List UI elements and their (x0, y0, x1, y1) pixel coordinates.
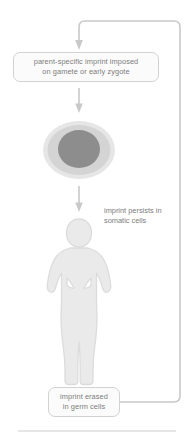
human-figure-silhouette (47, 219, 111, 385)
arrow-box-to-cell-head (75, 104, 83, 114)
node-imprint-imposed: parent-specific imprint imposed on gamet… (13, 52, 159, 82)
node-imprint-erased-line1: imprint erased (60, 392, 108, 402)
imprinting-cycle-figure: parent-specific imprint imposed on gamet… (0, 0, 194, 439)
figure-head (67, 219, 92, 247)
arrow-cell-to-person-head (75, 203, 83, 213)
node-imprint-imposed-line1: parent-specific imprint imposed (34, 57, 139, 67)
feedback-loop-arrowhead (75, 40, 83, 50)
node-imprint-erased-line2: in germ cells (63, 402, 105, 412)
node-imprint-erased: imprint erased in germ cells (48, 387, 120, 417)
node-imprint-imposed-line2: on gamete or early zygote (42, 67, 129, 77)
cell-nucleus (58, 130, 100, 168)
annotation-imprint-persists: imprint persists in somatic cells (104, 206, 188, 226)
annotation-imprint-persists-line1: imprint persists in (104, 206, 188, 216)
figure-body (47, 248, 111, 385)
annotation-imprint-persists-line2: somatic cells (104, 216, 188, 226)
cell-illustration (43, 121, 115, 179)
